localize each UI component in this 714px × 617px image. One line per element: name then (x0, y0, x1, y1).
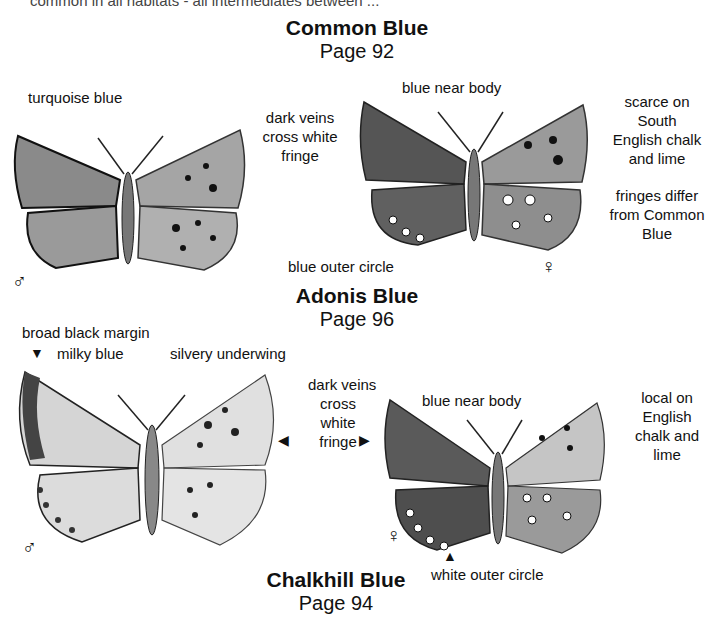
page-ref-common-blue: Page 92 (207, 40, 507, 63)
male-symbol: ♂ (12, 270, 27, 293)
note-line: lime (620, 445, 714, 464)
species-title-adonis-blue: Adonis Blue (207, 284, 507, 308)
note-line: fringes differ (600, 186, 714, 205)
label-turquoise-blue: turquoise blue (28, 88, 122, 107)
species-title-common-blue: Common Blue (207, 16, 507, 40)
note-line: from Common (600, 205, 714, 224)
note-line: English chalk (600, 130, 714, 149)
note-line: Blue (600, 224, 714, 243)
note-local-block: local on English chalk and lime (620, 388, 714, 464)
arrow-right-icon: ▶ (359, 432, 370, 448)
note-fringes-block: fringes differ from Common Blue (600, 186, 714, 243)
arrow-left-icon: ◀ (278, 432, 289, 448)
label-blue-near-body: blue near body (402, 78, 501, 97)
note-scarce-block: scarce on South English chalk and lime (600, 92, 714, 168)
note-line: South (600, 111, 714, 130)
note-line: English (620, 407, 714, 426)
label-line: dark veins (250, 108, 350, 127)
common-blue-male-illustration (8, 118, 248, 278)
label-line: fringe (250, 146, 350, 165)
label-line: white (308, 413, 368, 432)
label-milky-blue: milky blue (57, 344, 124, 363)
adonis-blue-female-illustration (382, 398, 612, 558)
label-dark-veins-block: dark veins cross white fringe (250, 108, 350, 165)
common-blue-female-illustration (358, 100, 598, 260)
label-broad-black-margin: broad black margin (22, 323, 150, 342)
note-line: chalk and (620, 426, 714, 445)
adonis-blue-male-illustration (10, 370, 275, 550)
note-line: and lime (600, 149, 714, 168)
male-symbol: ♂ (22, 536, 37, 559)
label-line: dark veins (308, 375, 368, 394)
note-line: local on (620, 388, 714, 407)
arrow-up-icon: ▲ (443, 548, 457, 564)
cut-off-text: common in all habitats - all intermediat… (30, 0, 379, 9)
label-line: cross white (250, 127, 350, 146)
female-symbol: ♀ (386, 524, 401, 547)
female-symbol: ♀ (541, 255, 556, 278)
label-line: cross (308, 394, 368, 413)
label-silvery-underwing: silvery underwing (170, 344, 286, 363)
note-line: scarce on (600, 92, 714, 111)
species-title-chalkhill-blue: Chalkhill Blue (186, 568, 486, 592)
page-ref-chalkhill-blue: Page 94 (186, 592, 486, 615)
arrow-down-icon: ▼ (30, 345, 44, 361)
page-ref-adonis-blue: Page 96 (207, 308, 507, 331)
